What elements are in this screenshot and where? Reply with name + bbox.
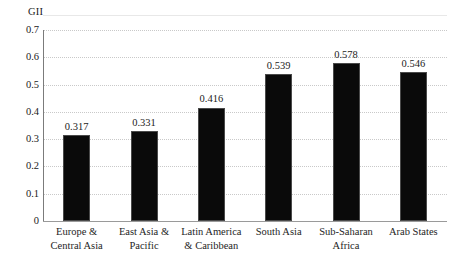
top-frame-line (43, 15, 447, 16)
bar-value-label: 0.416 (181, 93, 241, 104)
gridline (43, 194, 447, 195)
y-axis-tick-label: 0.5 (5, 79, 39, 90)
plot-area: 0.3170.3310.4160.5390.5780.546 (43, 30, 447, 221)
y-axis-tick-label: 0.2 (5, 160, 39, 171)
gridline (43, 112, 447, 113)
bar[interactable] (131, 131, 158, 221)
category-label-line: & Caribbean (178, 239, 245, 253)
category-label-line: Arab States (380, 225, 447, 239)
gridline (43, 85, 447, 86)
gridline (43, 166, 447, 167)
bar-value-label: 0.331 (114, 117, 174, 128)
x-axis-category-label: Latin America& Caribbean (178, 225, 245, 252)
category-label-line: Pacific (110, 239, 177, 253)
category-label-line: Africa (312, 239, 379, 253)
category-label-line: East Asia & (110, 225, 177, 239)
y-axis-tick-label: 0.6 (5, 51, 39, 62)
y-axis-line (43, 30, 44, 221)
y-axis-tick-label: 0 (5, 215, 39, 226)
category-label-line: Sub-Saharan (312, 225, 379, 239)
category-label-line: South Asia (245, 225, 312, 239)
bar-value-label: 0.539 (249, 60, 309, 71)
y-axis-tick-label: 0.7 (5, 24, 39, 35)
y-axis-tick-label: 0.1 (5, 188, 39, 199)
x-axis-category-label: South Asia (245, 225, 312, 239)
bar[interactable] (63, 135, 90, 221)
y-axis-tick-label: 0.3 (5, 133, 39, 144)
bar[interactable] (333, 63, 360, 221)
y-axis-tick-label: 0.4 (5, 106, 39, 117)
y-axis-tick-labels: 0.70.60.50.40.30.20.10 (0, 0, 39, 265)
category-label-line: Latin America (178, 225, 245, 239)
x-axis-category-label: Arab States (380, 225, 447, 239)
bar[interactable] (400, 72, 427, 221)
bar-value-label: 0.317 (47, 121, 107, 132)
category-label-line: Central Asia (43, 239, 110, 253)
category-label-line: Europe & (43, 225, 110, 239)
gridline (43, 139, 447, 140)
gridline (43, 30, 447, 31)
bar-value-label: 0.546 (383, 58, 443, 69)
bar[interactable] (265, 74, 292, 221)
bar-value-label: 0.578 (316, 49, 376, 60)
x-axis-category-label: Sub-SaharanAfrica (312, 225, 379, 252)
x-axis-category-label: Europe &Central Asia (43, 225, 110, 252)
x-axis-line (43, 221, 447, 222)
bar-chart: GII 0.70.60.50.40.30.20.10 0.3170.3310.4… (0, 0, 451, 265)
bar[interactable] (198, 108, 225, 222)
x-axis-category-label: East Asia &Pacific (110, 225, 177, 252)
